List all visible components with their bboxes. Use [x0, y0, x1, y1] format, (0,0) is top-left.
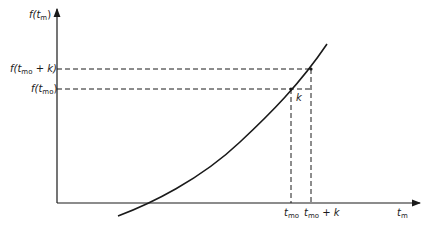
point-tmo-k: [309, 67, 312, 70]
point-tmo: [289, 87, 292, 90]
function-curve: [118, 44, 327, 216]
x-tick-tmo: tmo: [284, 208, 299, 220]
increment-label-k: k: [296, 93, 302, 103]
y-tick-f-tmo: f(tmo): [31, 84, 57, 96]
x-axis-label: tm: [397, 208, 408, 220]
function-plot: [0, 0, 432, 229]
x-tick-tmo-plus-k: tmo + k: [304, 208, 340, 220]
y-tick-f-tmo-plus-k: f(tmo + k): [10, 64, 57, 76]
y-axis-label: f(tm): [29, 10, 51, 22]
